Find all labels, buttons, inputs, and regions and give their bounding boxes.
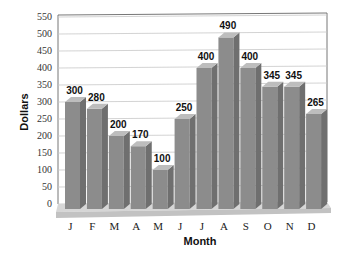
x-tick-label: F xyxy=(89,220,95,232)
x-tick-label: A xyxy=(220,220,228,232)
bar: 400 xyxy=(240,51,261,209)
y-tick-label: 450 xyxy=(37,45,52,56)
bar-value-label: 170 xyxy=(132,129,149,140)
bar-value-label: 400 xyxy=(198,51,215,62)
bar: 170 xyxy=(131,129,152,209)
y-tick-label: 400 xyxy=(37,62,52,73)
bar-value-label: 490 xyxy=(220,20,237,31)
bar-value-label: 280 xyxy=(88,92,105,103)
x-tick-label: N xyxy=(286,220,294,232)
bar-value-label: 200 xyxy=(110,119,127,130)
bar-value-label: 100 xyxy=(154,153,171,164)
bar: 250 xyxy=(175,102,196,209)
x-axis-ticks: JFMAMJJASOND xyxy=(68,220,315,232)
bar-value-label: 345 xyxy=(285,70,302,81)
x-tick-label: J xyxy=(200,220,205,232)
x-tick-label: J xyxy=(68,220,73,232)
y-tick-label: 200 xyxy=(37,130,52,141)
bars: 300280200170100250400490400345345265 xyxy=(65,20,327,209)
x-tick-label: O xyxy=(264,220,272,232)
bar: 265 xyxy=(306,97,327,209)
bar-value-label: 400 xyxy=(241,51,258,62)
x-axis-title: Month xyxy=(184,235,217,247)
y-tick-label: 350 xyxy=(37,79,52,90)
y-tick-label: 150 xyxy=(37,147,52,158)
x-tick-label: M xyxy=(109,220,119,232)
bar: 100 xyxy=(153,153,174,209)
y-tick-label: 300 xyxy=(37,96,52,107)
x-tick-label: M xyxy=(153,220,163,232)
bar-value-label: 300 xyxy=(66,85,83,96)
x-tick-label: D xyxy=(308,220,316,232)
y-tick-label: 250 xyxy=(37,113,52,124)
y-tick-label: 550 xyxy=(37,11,52,22)
y-tick-label: 500 xyxy=(37,28,52,39)
bar: 300 xyxy=(65,85,86,209)
bar: 345 xyxy=(284,70,305,209)
bar-chart: 050100150200250300350400450500550 300280… xyxy=(0,0,348,256)
bar: 490 xyxy=(218,20,239,209)
bar-value-label: 250 xyxy=(176,102,193,113)
y-tick-label: 100 xyxy=(37,164,52,175)
x-tick-label: S xyxy=(243,220,249,232)
y-axis-ticks: 050100150200250300350400450500550 xyxy=(37,11,52,209)
bar: 200 xyxy=(109,119,130,209)
y-tick-label: 50 xyxy=(42,181,52,192)
x-tick-label: J xyxy=(178,220,183,232)
bar: 280 xyxy=(87,92,108,209)
bar: 345 xyxy=(262,70,283,209)
y-tick-label: 0 xyxy=(47,198,52,209)
x-tick-label: A xyxy=(132,220,140,232)
bar-value-label: 265 xyxy=(307,97,324,108)
bar-value-label: 345 xyxy=(263,70,280,81)
bar: 400 xyxy=(197,51,218,209)
y-axis-title: Dollars xyxy=(18,93,30,130)
